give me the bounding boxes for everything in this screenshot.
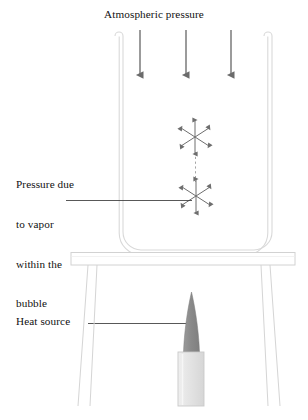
table-leg-right-outer [270, 265, 280, 406]
lower-bubble-pressure-arrows [182, 179, 210, 213]
u-tube-right-outer [254, 32, 272, 250]
upper-bubble-arrow-ne [195, 128, 209, 137]
vapor-pressure-label: Pressure due to vapor within the bubble [16, 152, 74, 337]
u-tube-right-inner [246, 37, 268, 256]
table-leg-right-inner [261, 265, 268, 406]
lower-bubble-arrow-se [196, 196, 210, 205]
lower-bubble-arrow-ne [196, 187, 210, 196]
table-leg-left-outer [78, 265, 88, 406]
u-tube-glass [115, 32, 272, 255]
table-leg-left-inner [90, 265, 97, 406]
upper-bubble-arrow-se [195, 137, 209, 146]
boiling-pressure-diagram: Atmospheric pressure Pressure due to vap… [0, 0, 308, 420]
vapor-pressure-label-line-1: Pressure due [16, 178, 74, 191]
table-top [71, 253, 295, 266]
vapor-pressure-label-line-2: to vapor [16, 218, 74, 231]
vapor-pressure-label-line-3: within the [16, 258, 74, 271]
burner-flame [184, 292, 200, 352]
upper-bubble-pressure-arrows [181, 120, 209, 154]
upper-bubble-arrow-sw [181, 137, 195, 146]
upper-bubble-arrow-nw [181, 128, 195, 137]
atmospheric-pressure-arrows [140, 30, 231, 75]
page-title: Atmospheric pressure [0, 8, 308, 21]
burner [178, 292, 204, 406]
vapor-pressure-label-line-4: bubble [16, 297, 74, 310]
lower-bubble-arrow-nw [182, 187, 196, 196]
heat-source-label: Heat source [16, 315, 70, 328]
